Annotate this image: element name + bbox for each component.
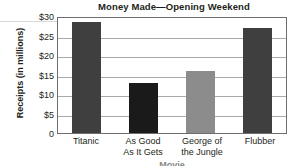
x-tick-label-titanic: Titanic <box>57 136 115 147</box>
y-tick-label-25: $25 <box>20 33 54 42</box>
x-tick-label-flubber-line-1: Flubber <box>231 136 289 147</box>
x-tick-label-as-good-as-it-gets-line-1: As Good <box>113 136 173 147</box>
y-tick-label-10: $10 <box>20 91 54 100</box>
y-tick-label-0: 0 <box>20 130 54 139</box>
x-tick-label-flubber: Flubber <box>231 136 289 147</box>
y-tick-label-20: $20 <box>20 52 54 61</box>
y-axis-tick-labels: $30 $25 $20 $15 $10 $5 0 <box>16 17 54 134</box>
x-tick-label-titanic-line-1: Titanic <box>57 136 115 147</box>
y-tick-label-5: $5 <box>20 111 54 120</box>
x-tick-label-as-good-as-it-gets-line-2: As It Gets <box>113 147 173 158</box>
chart-title: Money Made—Opening Weekend <box>56 1 292 12</box>
x-axis-title: Movie <box>57 160 287 166</box>
bars-layer <box>58 18 286 133</box>
x-tick-label-as-good-as-it-gets: As Good As It Gets <box>113 136 173 158</box>
y-tick-label-30: $30 <box>20 13 54 22</box>
bar-george-of-the-jungle <box>186 71 216 133</box>
x-tick-label-george-of-the-jungle: George of the Jungle <box>171 136 233 158</box>
x-tick-label-george-of-the-jungle-line-2: the Jungle <box>171 147 233 158</box>
bar-chart: Money Made—Opening Weekend Receipts (in … <box>0 0 292 166</box>
plot-area <box>57 17 287 134</box>
bar-titanic <box>72 22 102 133</box>
y-tick-label-15: $15 <box>20 72 54 81</box>
bar-flubber <box>243 28 273 133</box>
x-tick-label-george-of-the-jungle-line-1: George of <box>171 136 233 147</box>
x-axis-tick-labels: Titanic As Good As It Gets George of the… <box>57 136 287 162</box>
bar-as-good-as-it-gets <box>129 83 159 133</box>
